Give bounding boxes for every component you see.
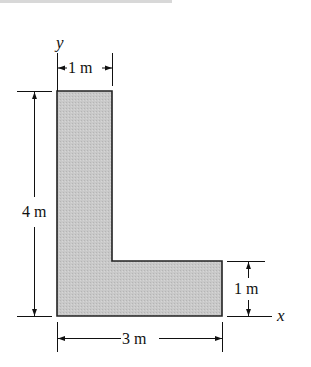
l-shape-diagram (0, 0, 311, 367)
height-label: 4 m (22, 204, 46, 220)
top-width-label: 1 m (68, 60, 92, 76)
x-axis-label: x (277, 307, 285, 324)
l-shape-area (57, 91, 222, 316)
leg-height-label: 1 m (234, 281, 258, 297)
y-axis-label: y (56, 34, 64, 51)
bottom-width-label: 3 m (122, 331, 146, 347)
